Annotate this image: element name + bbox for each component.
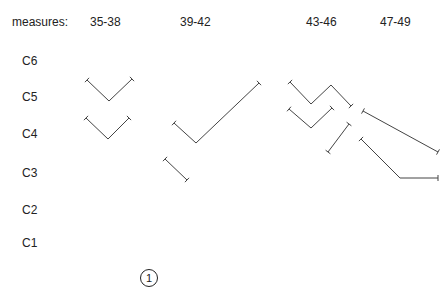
- contour-short-43-46: [326, 122, 352, 154]
- contour-check-39-42: [172, 81, 261, 143]
- contour-long-upper-47-49: [362, 108, 440, 154]
- contour-long-lower-47-49: [359, 137, 438, 181]
- contour-w-upper-43-46: [288, 80, 353, 108]
- contour-v-upper-35-38: [85, 77, 134, 101]
- contour-v-lower-35-38: [84, 116, 131, 139]
- contour-short-39-42: [163, 157, 189, 182]
- figure-number-badge: 1: [140, 269, 158, 287]
- contour-v-lower-43-46: [287, 106, 334, 128]
- contour-diagram: [0, 0, 446, 305]
